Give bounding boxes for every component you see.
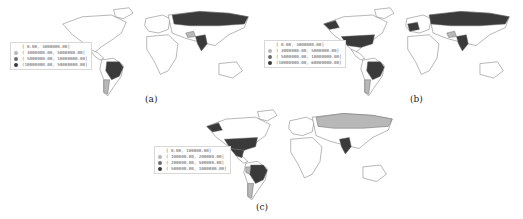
region-russia (429, 11, 509, 25)
legend-b: [ 0.00, 3000000.00] ( 3000000.00, 500000… (264, 40, 346, 68)
region-western-europe (408, 22, 420, 31)
legend-swatch-icon (14, 63, 18, 67)
map-panel-c: [ 0.00, 100000.00] ( 100000.00, 200000.0… (152, 108, 402, 216)
legend-a: [ 0.00, 3000000.00] ( 3000000.00, 500000… (10, 42, 92, 70)
legend-item: (10000000.00, 50000000.00] (14, 62, 88, 68)
legend-item: (10000000.00, 60000000.00] (268, 60, 342, 66)
legend-swatch-icon (268, 49, 272, 53)
legend-swatch-icon (14, 57, 18, 61)
region-india (340, 137, 352, 154)
legend-swatch-icon (14, 51, 18, 55)
region-india (196, 35, 208, 51)
legend-item: ( 500000.00, 1000000.00] (158, 166, 227, 172)
map-panel-a: [ 0.00, 3000000.00] ( 3000000.00, 500000… (8, 6, 258, 106)
region-russia (172, 11, 248, 25)
legend-swatch-icon (158, 161, 162, 165)
legend-swatch-icon (268, 61, 272, 65)
map-panel-b: [ 0.00, 3000000.00] ( 3000000.00, 500000… (262, 6, 520, 106)
legend-c: [ 0.00, 100000.00] ( 100000.00, 200000.0… (154, 146, 231, 174)
caption-b: (b) (410, 94, 423, 104)
legend-swatch-icon (158, 167, 162, 171)
caption-c: (c) (256, 202, 268, 212)
caption-a: (a) (145, 94, 157, 104)
region-india (457, 35, 469, 51)
region-usa (341, 35, 374, 48)
legend-swatch-icon (268, 55, 272, 59)
region-russia (316, 114, 392, 129)
region-mexico (230, 148, 244, 157)
legend-swatch-icon (158, 149, 162, 153)
legend-swatch-icon (268, 43, 272, 47)
legend-swatch-icon (14, 45, 18, 49)
legend-swatch-icon (158, 155, 162, 159)
